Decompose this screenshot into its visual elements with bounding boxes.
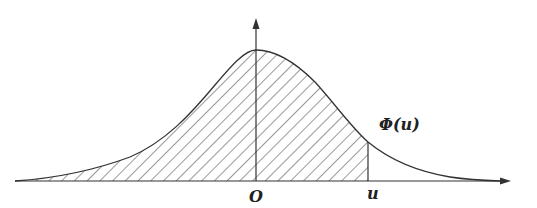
- phi-u-label: Φ(u): [379, 115, 420, 134]
- u-label: u: [367, 184, 379, 203]
- shaded-area: [15, 50, 368, 181]
- y-axis-arrow-icon: [253, 18, 260, 29]
- x-axis-arrow-icon: [500, 178, 511, 185]
- normal-curve-diagram: O u Φ(u): [0, 0, 537, 208]
- origin-label: O: [249, 187, 263, 206]
